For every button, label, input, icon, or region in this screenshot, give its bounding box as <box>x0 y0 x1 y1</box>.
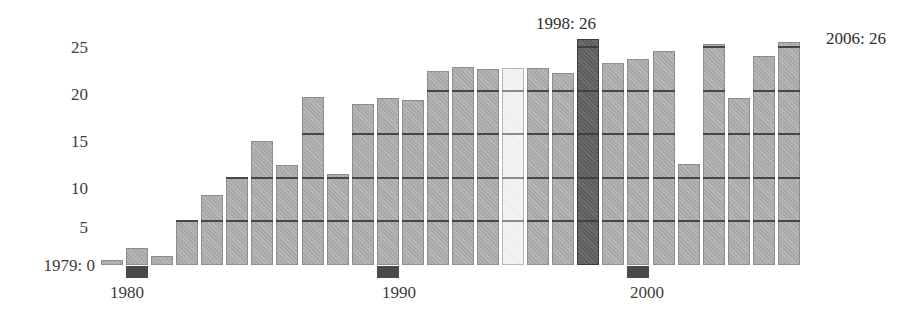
gridline-segment <box>327 220 349 222</box>
gridline-segment <box>653 133 675 135</box>
gridline-segment <box>753 133 775 135</box>
bar-1993[interactable] <box>452 67 474 265</box>
gridline-segment <box>728 220 750 222</box>
y-axis-label-15: 15 <box>0 133 88 150</box>
gridline-segment <box>327 177 349 179</box>
bar-1996[interactable] <box>527 68 549 265</box>
gridline-segment <box>703 46 725 48</box>
gridline-segment <box>302 133 324 135</box>
gridline-segment <box>653 90 675 92</box>
bar-1980[interactable] <box>126 248 148 265</box>
gridline-segment <box>577 46 599 48</box>
gridline-segment <box>352 177 374 179</box>
bar-2003[interactable] <box>703 44 725 265</box>
bar-2005[interactable] <box>753 56 775 265</box>
gridline-segment <box>778 133 800 135</box>
gridline-segment <box>502 90 524 92</box>
x-axis-label-2000: 2000 <box>607 284 687 301</box>
gridline-segment <box>302 177 324 179</box>
gridline-segment <box>427 220 449 222</box>
gridline-segment <box>402 177 424 179</box>
gridline-segment <box>653 177 675 179</box>
gridline-segment <box>226 220 248 222</box>
x-axis-tick-1980 <box>126 266 148 278</box>
gridline-segment <box>427 90 449 92</box>
bar-1983[interactable] <box>201 195 223 265</box>
gridline-segment <box>527 133 549 135</box>
x-axis-tick-1990 <box>377 266 399 278</box>
bar-1990[interactable] <box>377 98 399 265</box>
gridline-segment <box>452 133 474 135</box>
gridline-segment <box>728 177 750 179</box>
gridline-segment <box>778 90 800 92</box>
y-axis-label-5: 5 <box>0 219 88 236</box>
gridline-segment <box>552 133 574 135</box>
annotation-2006: 2006: 26 <box>826 30 886 47</box>
y-axis-label-origin: 1979: 0 <box>0 257 95 274</box>
bar-1985[interactable] <box>251 141 273 265</box>
gridline-segment <box>627 220 649 222</box>
bar-1998[interactable] <box>577 39 599 265</box>
gridline-segment <box>527 90 549 92</box>
bar-1981[interactable] <box>151 256 173 265</box>
gridline-segment <box>552 220 574 222</box>
bar-1994[interactable] <box>477 69 499 265</box>
gridline-segment <box>226 177 248 179</box>
gridline-segment <box>703 90 725 92</box>
gridline-segment <box>753 220 775 222</box>
gridline-segment <box>778 46 800 48</box>
gridline-segment <box>377 177 399 179</box>
bar-1987[interactable] <box>302 97 324 265</box>
gridline-segment <box>502 220 524 222</box>
bar-2006[interactable] <box>778 42 800 265</box>
gridline-segment <box>477 220 499 222</box>
gridline-segment <box>427 133 449 135</box>
gridline-segment <box>452 90 474 92</box>
bar-1999[interactable] <box>602 63 624 265</box>
gridline-segment <box>627 90 649 92</box>
gridline-segment <box>452 177 474 179</box>
gridline-segment <box>201 220 223 222</box>
gridline-segment <box>577 133 599 135</box>
gridline-segment <box>452 220 474 222</box>
bar-chart: 25 20 15 10 5 1979: 0 1998: 26 2006: 26 … <box>0 0 908 309</box>
bar-1988[interactable] <box>327 174 349 265</box>
gridline-segment <box>577 90 599 92</box>
gridline-segment <box>577 177 599 179</box>
gridline-segment <box>276 220 298 222</box>
bar-2004[interactable] <box>728 98 750 265</box>
gridline-segment <box>477 133 499 135</box>
gridline-segment <box>602 133 624 135</box>
gridline-segment <box>778 177 800 179</box>
x-axis-label-1980: 1980 <box>87 284 167 301</box>
bar-1995[interactable] <box>502 68 524 265</box>
bar-1991[interactable] <box>402 100 424 265</box>
bar-2001[interactable] <box>653 51 675 265</box>
gridline-segment <box>753 90 775 92</box>
gridline-segment <box>276 177 298 179</box>
bar-2002[interactable] <box>678 164 700 265</box>
gridline-segment <box>627 133 649 135</box>
gridline-segment <box>251 177 273 179</box>
bar-1982[interactable] <box>176 221 198 265</box>
bar-1986[interactable] <box>276 165 298 265</box>
y-axis-label-20: 20 <box>0 86 88 103</box>
gridline-segment <box>477 90 499 92</box>
gridline-segment <box>602 90 624 92</box>
gridline-segment <box>753 177 775 179</box>
gridline-segment <box>552 177 574 179</box>
gridline-segment <box>527 177 549 179</box>
gridline-segment <box>703 220 725 222</box>
gridline-segment <box>703 177 725 179</box>
gridline-segment <box>377 133 399 135</box>
bar-1997[interactable] <box>552 73 574 265</box>
gridline-segment <box>176 220 198 222</box>
bar-1989[interactable] <box>352 104 374 265</box>
bar-1992[interactable] <box>427 71 449 265</box>
gridline-segment <box>552 90 574 92</box>
gridline-segment <box>477 177 499 179</box>
bar-1979[interactable] <box>101 260 123 265</box>
x-axis-label-1990: 1990 <box>359 284 439 301</box>
gridline-segment <box>577 220 599 222</box>
plot-area <box>101 30 803 265</box>
